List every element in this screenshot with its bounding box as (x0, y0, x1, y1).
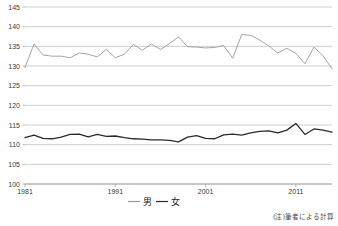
y-axis-tick-labels: 100105110115120125130135140145 (8, 4, 20, 188)
legend-label-female: 女 (171, 196, 180, 207)
x-axis-tick-label: 1991 (108, 188, 124, 195)
line-chart: 100105110115120125130135140145 198119912… (0, 0, 338, 226)
y-axis-tick-label: 105 (8, 161, 20, 168)
gridlines (23, 7, 333, 184)
series-line-male (25, 35, 332, 69)
y-axis-tick-label: 140 (8, 23, 20, 30)
data-series-group (25, 35, 332, 142)
x-axis-tick-labels: 1981199120012011 (17, 188, 303, 195)
x-axis-ticks (25, 184, 296, 187)
x-axis-tick-label: 2001 (198, 188, 214, 195)
legend-label-male: 男 (143, 197, 152, 207)
chart-container: 100105110115120125130135140145 198119912… (0, 0, 338, 226)
y-axis-tick-label: 110 (9, 141, 20, 148)
series-line-female (25, 123, 332, 141)
x-axis-tick-label: 2011 (288, 188, 303, 195)
y-axis-tick-label: 115 (9, 122, 20, 129)
y-axis-tick-label: 135 (8, 43, 20, 50)
y-axis-tick-label: 145 (8, 4, 20, 11)
x-axis-tick-label: 1981 (17, 188, 33, 195)
y-axis-tick-label: 120 (8, 102, 20, 109)
y-axis-tick-label: 130 (8, 63, 20, 70)
y-axis-tick-label: 100 (8, 181, 20, 188)
source-note: (注)筆者による計算 (273, 212, 334, 221)
chart-legend: 男 女 (128, 196, 180, 207)
y-axis-tick-label: 125 (8, 82, 20, 89)
